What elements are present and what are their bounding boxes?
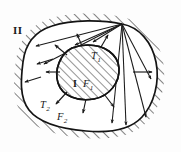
label-traction-outer-base: T	[40, 99, 46, 110]
label-force-outer-base: F	[57, 111, 63, 122]
label-traction-inner-base: T	[91, 50, 97, 61]
figure-container: II I T1 F1 T2 F2	[0, 0, 181, 152]
label-force-outer: F2	[57, 112, 67, 123]
label-force-inner-subscript: 1	[90, 84, 94, 92]
label-force-outer-subscript: 2	[64, 117, 68, 125]
label-traction-inner-subscript: 1	[97, 56, 101, 64]
label-force-inner: F1	[83, 79, 93, 90]
label-traction-outer-subscript: 2	[46, 105, 50, 113]
diagram-canvas	[0, 0, 181, 152]
label-force-inner-base: F	[83, 78, 89, 89]
label-traction-inner: T1	[91, 51, 100, 62]
label-region-inner: I	[73, 79, 77, 89]
label-region-outer: II	[13, 25, 22, 36]
label-traction-outer: T2	[40, 100, 49, 111]
